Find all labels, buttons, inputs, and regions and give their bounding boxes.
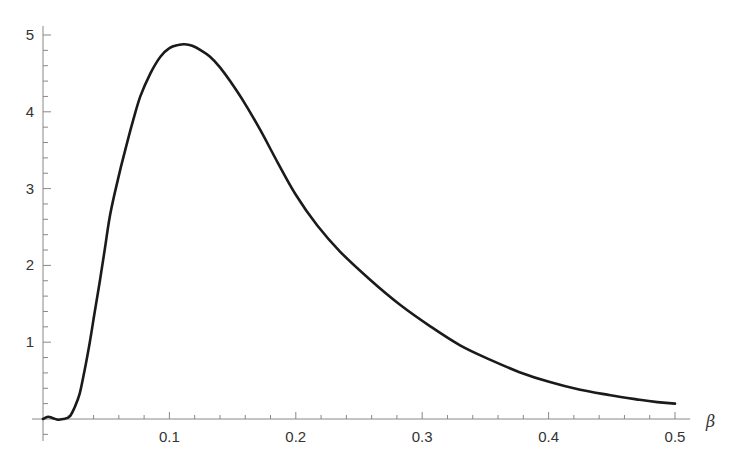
y-axis: 12345 xyxy=(26,26,51,441)
y-tick-label: 2 xyxy=(26,256,34,273)
y-tick-label: 5 xyxy=(26,26,34,43)
x-tick-label: 0.1 xyxy=(159,428,180,445)
x-tick-label: 0.3 xyxy=(412,428,433,445)
x-axis-label: β xyxy=(705,412,715,431)
y-tick-label: 4 xyxy=(26,103,34,120)
y-tick-label: 3 xyxy=(26,180,34,197)
y-tick-label: 1 xyxy=(26,333,34,350)
x-tick-label: 0.4 xyxy=(538,428,559,445)
x-tick-label: 0.5 xyxy=(665,428,686,445)
line-chart: 12345 0.10.20.30.40.5 β xyxy=(0,0,730,467)
x-axis: 0.10.20.30.40.5 xyxy=(32,412,690,445)
data-line xyxy=(43,44,675,420)
x-tick-label: 0.2 xyxy=(285,428,306,445)
